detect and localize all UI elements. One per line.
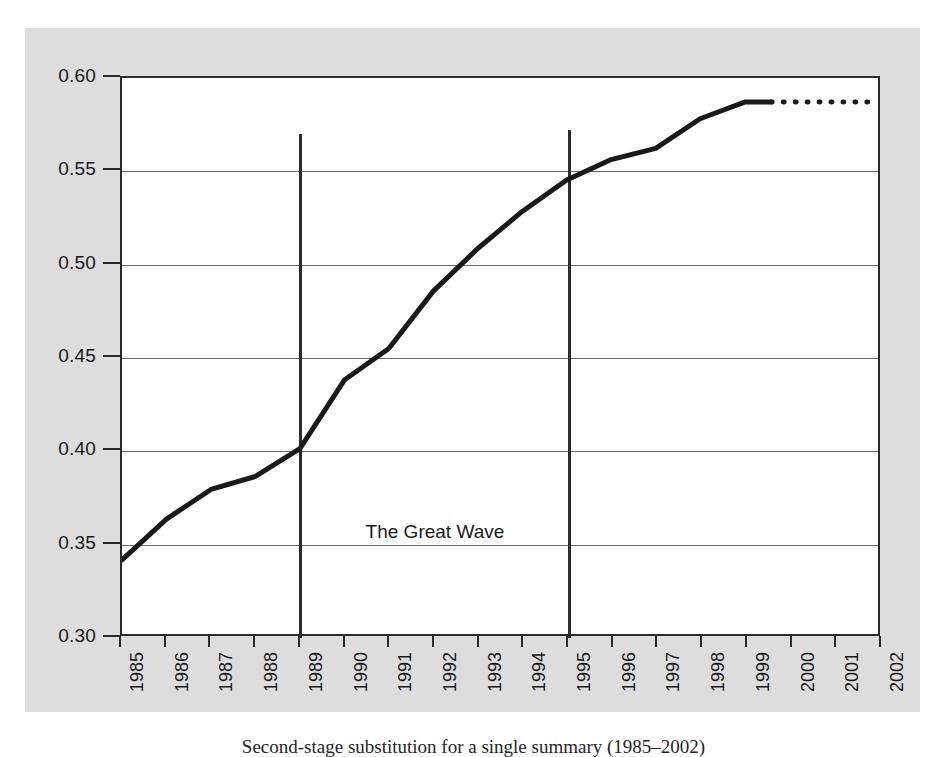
y-tick-label-0_35: 0.35	[58, 532, 96, 554]
x-tick-mark-1996	[611, 636, 613, 647]
x-tick-label-1997: 1997	[663, 652, 684, 692]
x-tick-label-1986: 1986	[172, 652, 193, 692]
x-tick-mark-1993	[477, 636, 479, 647]
x-tick-label-1996: 1996	[619, 652, 640, 692]
x-tick-label-1995: 1995	[574, 652, 595, 692]
x-tick-mark-1999	[745, 636, 747, 647]
x-tick-label-1999: 1999	[753, 652, 774, 692]
x-tick-mark-1994	[521, 636, 523, 647]
x-tick-mark-2001	[834, 636, 836, 647]
x-tick-mark-1992	[432, 636, 434, 647]
x-tick-label-1989: 1989	[306, 652, 327, 692]
x-tick-label-1988: 1988	[261, 652, 282, 692]
x-tick-mark-1989	[298, 636, 300, 647]
y-tick-label-0_60: 0.60	[58, 65, 96, 87]
great-wave-annotation-row: The Great Wave	[122, 545, 878, 546]
y-tick-label-0_50: 0.50	[58, 252, 96, 274]
x-tick-mark-1986	[164, 636, 166, 647]
y-tick-label-0_45: 0.45	[58, 345, 96, 367]
x-tick-label-1985: 1985	[127, 652, 148, 692]
x-tick-mark-1985	[119, 636, 121, 647]
x-tick-mark-2000	[790, 636, 792, 647]
x-tick-label-1990: 1990	[351, 652, 372, 692]
y-tick-mark-0_35	[103, 542, 120, 544]
x-tick-label-2000: 2000	[798, 652, 819, 692]
x-tick-mark-1988	[253, 636, 255, 647]
x-tick-mark-1987	[208, 636, 210, 647]
x-tick-label-2002: 2002	[887, 652, 908, 692]
y-tick-mark-0_40	[103, 448, 120, 450]
x-tick-label-1987: 1987	[216, 652, 237, 692]
x-tick-label-1994: 1994	[529, 652, 550, 692]
x-tick-label-1998: 1998	[708, 652, 729, 692]
y-tick-label-0_30: 0.30	[58, 625, 96, 647]
x-tick-mark-2002	[879, 636, 881, 647]
x-tick-mark-1995	[566, 636, 568, 647]
great-wave-label: The Great Wave	[352, 519, 519, 545]
y-tick-mark-0_50	[103, 262, 120, 264]
annotation-layer: The Great Wave	[122, 78, 878, 634]
figure-caption: Second-stage substitution for a single s…	[0, 736, 947, 757]
y-tick-mark-0_60	[103, 75, 120, 77]
y-axis: 0.600.550.500.450.400.350.30	[25, 76, 120, 636]
x-tick-mark-1998	[700, 636, 702, 647]
y-tick-label-0_55: 0.55	[58, 158, 96, 180]
y-tick-label-0_40: 0.40	[58, 438, 96, 460]
x-tick-label-1992: 1992	[440, 652, 461, 692]
x-tick-label-1991: 1991	[395, 652, 416, 692]
x-tick-label-2001: 2001	[842, 652, 863, 692]
plot-area: The Great Wave	[120, 76, 880, 636]
x-tick-mark-1991	[387, 636, 389, 647]
x-axis: 1985198619871988198919901991199219931994…	[120, 636, 880, 726]
y-tick-mark-0_45	[103, 355, 120, 357]
y-tick-mark-0_30	[103, 635, 120, 637]
figure-panel: 0.600.550.500.450.400.350.30 The Great W…	[25, 28, 920, 712]
x-tick-mark-1990	[343, 636, 345, 647]
y-tick-mark-0_55	[103, 168, 120, 170]
x-tick-mark-1997	[655, 636, 657, 647]
x-tick-label-1993: 1993	[485, 652, 506, 692]
